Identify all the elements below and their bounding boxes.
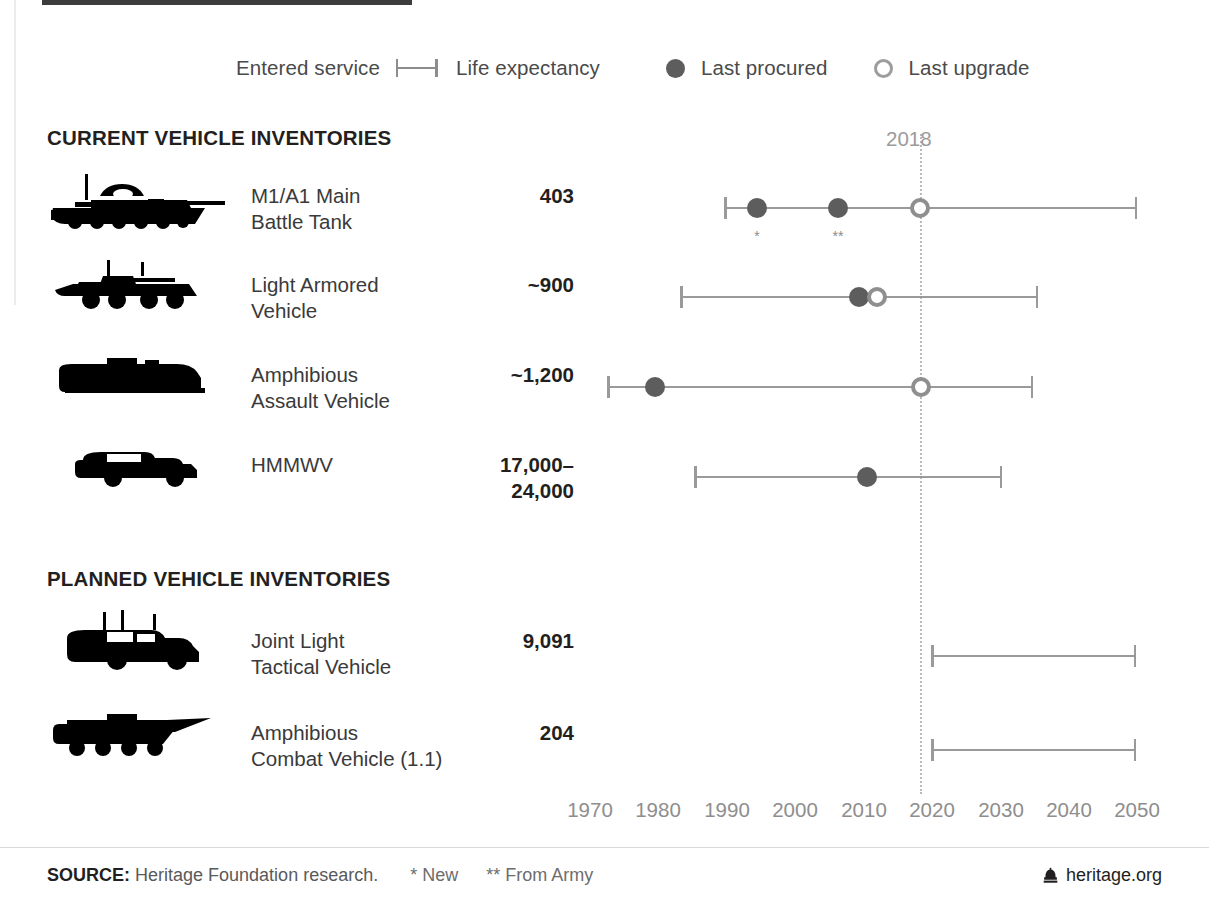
- vehicle-quantity: 403: [466, 183, 574, 209]
- vehicle-quantity-line1: 17,000–: [466, 452, 574, 478]
- main-battle-tank-icon: [45, 170, 235, 232]
- life-expectancy-track: [607, 386, 1033, 388]
- timeline-bar: [724, 197, 1137, 219]
- axis-tick: 2040: [1034, 798, 1104, 822]
- vehicle-name: M1/A1 Main Battle Tank: [251, 183, 466, 235]
- life-expectancy-cap: [1000, 466, 1003, 488]
- legend: Entered service Life expectancy Last pro…: [236, 52, 1029, 84]
- vehicle-name-line2: Assault Vehicle: [251, 388, 466, 414]
- life-expectancy-cap: [1036, 286, 1039, 308]
- vehicle-quantity: 9,091: [466, 628, 574, 654]
- vehicle-name: Amphibious Combat Vehicle (1.1): [251, 720, 466, 772]
- last-upgrade-marker: [867, 287, 887, 307]
- life-expectancy-bar-icon: [394, 59, 440, 77]
- last-procured-marker: [645, 377, 665, 397]
- cropped-title-sliver: [42, 0, 412, 5]
- site-label: heritage.org: [1066, 865, 1162, 886]
- vehicle-quantity: ~1,200: [466, 362, 574, 388]
- footnote-legend-1: * New: [410, 865, 458, 885]
- source-label: SOURCE:: [47, 865, 130, 885]
- liberty-bell-icon: [1042, 867, 1059, 884]
- last-upgrade-marker: [911, 377, 931, 397]
- amphibious-combat-vehicle-icon: [45, 706, 235, 762]
- vehicle-name-line2: Battle Tank: [251, 209, 466, 235]
- section-header-planned: PLANNED VEHICLE INVENTORIES: [47, 567, 390, 591]
- filled-circle-icon: [666, 59, 685, 78]
- vehicle-name-line1: Light Armored: [251, 272, 466, 298]
- timeline-bar: [931, 739, 1136, 761]
- axis-tick: 2050: [1102, 798, 1172, 822]
- last-procured-marker: [747, 198, 767, 218]
- amphibious-assault-vehicle-icon: [45, 348, 235, 404]
- vehicle-quantity-line1: ~900: [466, 272, 574, 298]
- site-credit[interactable]: heritage.org: [1042, 865, 1162, 886]
- life-expectancy-track: [724, 207, 1137, 209]
- left-edge-rule: [14, 0, 16, 305]
- timeline-bar: [680, 286, 1038, 308]
- last-procured-marker: [857, 467, 877, 487]
- vehicle-name-line2: Combat Vehicle (1.1): [251, 746, 466, 772]
- vehicle-name-line1: HMMWV: [251, 452, 466, 478]
- reference-year-line: [920, 134, 922, 794]
- life-expectancy-track: [931, 655, 1136, 657]
- light-armored-vehicle-icon: [45, 258, 235, 316]
- axis-tick: 2000: [760, 798, 830, 822]
- life-expectancy-cap: [1134, 645, 1137, 667]
- vehicle-quantity-line2: 24,000: [466, 478, 574, 504]
- vehicle-name: Amphibious Assault Vehicle: [251, 362, 466, 414]
- additional-procured-marker: [828, 198, 848, 218]
- vehicle-quantity: ~900: [466, 272, 574, 298]
- open-circle-icon: [874, 59, 893, 78]
- legend-life-expectancy-label: Life expectancy: [456, 56, 600, 80]
- reference-year-label: 2018: [886, 127, 932, 151]
- vehicle-name: Light Armored Vehicle: [251, 272, 466, 324]
- axis-tick: 1990: [692, 798, 762, 822]
- vehicle-quantity: 17,000– 24,000: [466, 452, 574, 504]
- last-procured-marker: [849, 287, 869, 307]
- vehicle-name-line1: Amphibious: [251, 720, 466, 746]
- source-text: Heritage Foundation research.: [135, 865, 378, 885]
- life-expectancy-track: [694, 476, 1002, 478]
- vehicle-name-line2: Tactical Vehicle: [251, 654, 466, 680]
- life-expectancy-cap: [1031, 376, 1034, 398]
- vehicle-quantity-line1: 204: [466, 720, 574, 746]
- source-line: SOURCE: Heritage Foundation research. * …: [47, 865, 593, 886]
- life-expectancy-cap: [1134, 739, 1137, 761]
- x-axis: 1970 1980 1990 2000 2010 2020 2030 2040 …: [0, 798, 1209, 824]
- vehicle-name-line2: Vehicle: [251, 298, 466, 324]
- vehicle-name-line1: Joint Light: [251, 628, 466, 654]
- vehicle-name: Joint Light Tactical Vehicle: [251, 628, 466, 680]
- legend-last-procured-label: Last procured: [701, 56, 828, 80]
- vehicle-quantity: 204: [466, 720, 574, 746]
- axis-tick: 1980: [623, 798, 693, 822]
- life-expectancy-cap: [1135, 197, 1138, 219]
- section-header-current: CURRENT VEHICLE INVENTORIES: [47, 126, 391, 150]
- footnote-marker: **: [828, 228, 848, 244]
- footnote-marker: *: [747, 228, 767, 244]
- axis-tick: 1970: [555, 798, 625, 822]
- axis-tick: 2030: [966, 798, 1036, 822]
- axis-tick: 2010: [829, 798, 899, 822]
- legend-entered-service-label: Entered service: [236, 56, 380, 80]
- footnote-legend-2: ** From Army: [486, 865, 593, 885]
- last-upgrade-marker: [910, 198, 930, 218]
- timeline-bar: [931, 645, 1136, 667]
- axis-tick: 2020: [897, 798, 967, 822]
- joint-light-tactical-vehicle-icon: [45, 610, 235, 672]
- hmmwv-icon: [45, 438, 235, 490]
- footer: SOURCE: Heritage Foundation research. * …: [0, 847, 1209, 908]
- legend-last-upgrade-label: Last upgrade: [909, 56, 1030, 80]
- vehicle-quantity-line1: ~1,200: [466, 362, 574, 388]
- vehicle-name: HMMWV: [251, 452, 466, 478]
- timeline-bar: [607, 376, 1033, 398]
- vehicle-quantity-line1: 9,091: [466, 628, 574, 654]
- life-expectancy-track: [931, 749, 1136, 751]
- vehicle-name-line1: M1/A1 Main: [251, 183, 466, 209]
- vehicle-quantity-line1: 403: [466, 183, 574, 209]
- vehicle-name-line1: Amphibious: [251, 362, 466, 388]
- timeline-bar: [694, 466, 1002, 488]
